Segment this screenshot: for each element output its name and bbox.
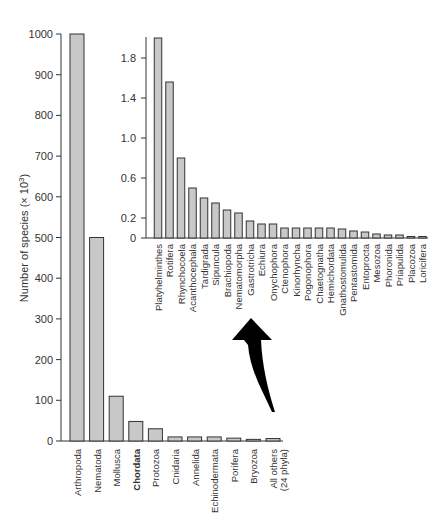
inset-y-tick-label: 0 xyxy=(130,232,136,244)
inset-bar-tardigrada xyxy=(200,198,208,238)
inset-bars: PlatyhelminthesRotiferaRhynchocoelaAcant… xyxy=(153,38,429,316)
bar-annelida xyxy=(188,437,202,441)
y-tick-label: 600 xyxy=(35,191,53,203)
inset-x-tick-label: Onychophora xyxy=(268,243,279,301)
inset-bar-pentastomida xyxy=(350,231,358,238)
y-tick-label: 500 xyxy=(35,232,53,244)
inset-x-tick-label: Chaetognatha xyxy=(314,243,325,303)
y-tick-label: 100 xyxy=(35,394,53,406)
inset-bar-acanthocephala xyxy=(189,188,197,238)
inset-x-tick-label: Priapulida xyxy=(394,243,405,286)
arrow-icon xyxy=(232,318,275,412)
inset-bar-rotifera xyxy=(166,82,174,238)
inset-x-tick-label: Loricifera xyxy=(417,243,428,283)
inset-bar-onychophora xyxy=(269,224,277,238)
x-tick-label: Mollusca xyxy=(111,448,122,486)
bar-nematoda xyxy=(90,238,104,442)
inset-x-tick-label: Platyhelminthes xyxy=(153,244,164,311)
inset-bar-sipuncula xyxy=(212,203,220,238)
y-tick-label: 900 xyxy=(35,69,53,81)
inset-bar-chaetognatha xyxy=(315,228,323,238)
bar-mollusca xyxy=(109,396,123,441)
bar-echinodermata xyxy=(207,437,221,441)
inset-bar-phoronida xyxy=(384,235,392,238)
bar-chordata xyxy=(129,421,143,441)
inset-bar-entoprocta xyxy=(361,232,369,238)
inset-bar-brachiopoda xyxy=(223,210,231,238)
inset-y-tick-label: 1.4 xyxy=(121,92,136,104)
y-axis-label: Number of species (× 103) xyxy=(17,174,30,302)
inset-x-tick-label: Rhynchocoela xyxy=(176,243,187,304)
inset-bar-platyhelminthes xyxy=(154,38,162,238)
inset-x-tick-label: Acanthocephala xyxy=(187,243,198,312)
inset-x-tick-label: Nematomorpha xyxy=(233,243,244,309)
bar-protozoa xyxy=(148,429,162,441)
inset-x-tick-label: Phoronida xyxy=(383,243,394,287)
inset-bar-kinorhyncha xyxy=(292,228,300,238)
x-tick-label-line2: (24 phyla) xyxy=(278,449,289,491)
inset-x-tick-label: Kinorhyncha xyxy=(291,243,302,297)
inset-bar-loricifera xyxy=(419,237,427,239)
x-tick-label: Bryozoa xyxy=(248,448,259,484)
inset-bar-priapulida xyxy=(396,235,404,238)
inset-y-tick-label: 0.2 xyxy=(121,212,136,224)
x-tick-label: Arthropoda xyxy=(72,448,83,496)
y-tick-label: 800 xyxy=(35,109,53,121)
bar-cnidaria xyxy=(168,437,182,441)
inset-x-tick-label: Tardigrada xyxy=(199,243,210,289)
y-tick-label: 300 xyxy=(35,313,53,325)
inset-x-tick-label: Gnathostomulida xyxy=(337,243,348,316)
x-tick-label: Annelida xyxy=(190,448,201,486)
bar-porifera xyxy=(227,438,241,441)
inset-y-tick-label: 1.8 xyxy=(121,52,136,64)
y-tick-label: 1000 xyxy=(29,28,53,40)
inset-bar-mesozoa xyxy=(373,234,381,238)
inset-bar-rhynchocoela xyxy=(177,158,185,238)
y-tick-label: 700 xyxy=(35,150,53,162)
bar-all-others xyxy=(266,439,280,441)
x-tick-label: Nematoda xyxy=(92,448,103,493)
x-tick-label: Porifera xyxy=(229,448,240,482)
y-tick-label: 200 xyxy=(35,354,53,366)
inset-x-tick-label: Entoprocta xyxy=(360,243,371,290)
inset-x-tick-label: Hemichordata xyxy=(325,243,336,303)
inset-y-tick-label: 1.0 xyxy=(121,132,136,144)
y-tick-label: 0 xyxy=(47,435,53,447)
inset-x-tick-label: Ctenophora xyxy=(279,243,290,293)
bar-arthropoda xyxy=(70,34,84,441)
inset-bar-placozoa xyxy=(407,237,415,239)
inset-x-tick-label: Mesozoa xyxy=(371,243,382,282)
inset-x-tick-label: Gastrotricha xyxy=(245,243,256,295)
inset-x-tick-label: Pentastomida xyxy=(348,243,359,302)
inset-bar-ctenophora xyxy=(281,228,289,238)
bar-bryozoa xyxy=(246,439,260,441)
x-tick-label: Protozoa xyxy=(150,448,161,487)
x-tick-label: Chordata xyxy=(131,448,142,490)
inset-bar-gastrotricha xyxy=(246,221,254,238)
inset-x-tick-label: Sipuncula xyxy=(210,243,221,285)
inset-bar-echiura xyxy=(258,224,266,238)
inset-x-tick-label: Brachiopoda xyxy=(222,243,233,297)
inset-bar-pogonophora xyxy=(304,228,312,238)
species-bar-chart: 01002003004005006007008009001000 Arthrop… xyxy=(0,0,446,527)
y-tick-label: 400 xyxy=(35,272,53,284)
inset-y-tick-label: 0.6 xyxy=(121,172,136,184)
inset-bar-hemichordata xyxy=(327,228,335,238)
inset-x-tick-label: Pogonophora xyxy=(302,243,313,301)
inset-bar-nematomorpha xyxy=(235,213,243,238)
x-tick-label: Echinodermata xyxy=(209,448,220,513)
inset-x-tick-label: Echiura xyxy=(256,243,267,276)
x-tick-label: Cnidaria xyxy=(170,448,181,484)
inset-bar-gnathostomulida xyxy=(338,229,346,238)
inset-x-tick-label: Placozoa xyxy=(406,243,417,283)
inset-x-tick-label: Rotifera xyxy=(164,243,175,277)
